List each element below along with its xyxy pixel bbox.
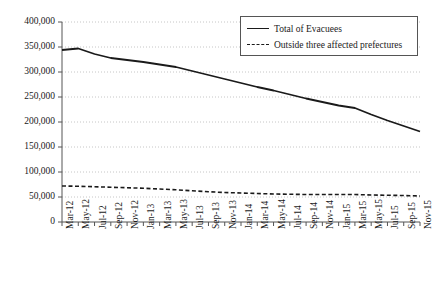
y-axis-ticks bbox=[58, 22, 62, 222]
x-axis-tick-label: Nov-15 bbox=[424, 200, 432, 229]
x-axis-tick-label: Jul-15 bbox=[391, 205, 401, 229]
y-axis-tick-label: 250,000 bbox=[24, 92, 55, 102]
x-axis-tick-label: Sep-12 bbox=[115, 202, 125, 229]
y-axis-tick-label: 200,000 bbox=[24, 117, 55, 127]
x-axis-tick-label: Jul-13 bbox=[196, 205, 206, 229]
legend: Total of Evacuees Outside three affected… bbox=[240, 16, 418, 56]
series-line-total-of-evacuees bbox=[62, 49, 420, 132]
x-axis-tick-label: Sep-15 bbox=[408, 202, 418, 229]
legend-label-outside: Outside three affected prefectures bbox=[274, 40, 402, 50]
legend-label-total: Total of Evacuees bbox=[274, 24, 342, 34]
x-axis-tick-label: Nov-14 bbox=[326, 200, 336, 229]
line-chart: 400,000350,000300,000250,000200,000150,0… bbox=[0, 0, 432, 284]
data-series-group bbox=[62, 49, 420, 197]
x-axis-tick-label: May-13 bbox=[180, 199, 190, 229]
x-axis-tick-label: May-12 bbox=[82, 199, 92, 229]
x-axis-tick-label: Mar-15 bbox=[359, 201, 369, 229]
legend-item-outside: Outside three affected prefectures bbox=[247, 37, 411, 53]
x-axis-tick-label: Jul-12 bbox=[99, 205, 109, 229]
x-axis-tick-label: May-15 bbox=[375, 199, 385, 229]
y-axis-tick-label: 400,000 bbox=[24, 17, 55, 27]
x-axis-tick-label: Jan-14 bbox=[245, 204, 255, 229]
x-axis-tick-label: Nov-13 bbox=[229, 200, 239, 229]
y-axis-tick-label: 300,000 bbox=[24, 67, 55, 77]
series-line-outside-three-affected-prefectures bbox=[62, 186, 420, 196]
x-axis-tick-label: Jan-15 bbox=[343, 204, 353, 229]
x-axis-tick-label: Jul-14 bbox=[294, 205, 304, 229]
x-axis-tick-label: Sep-14 bbox=[310, 202, 320, 229]
x-axis-tick-label: May-14 bbox=[278, 199, 288, 229]
x-axis-tick-label: Jan-13 bbox=[147, 204, 157, 229]
y-axis-tick-label: 50,000 bbox=[29, 192, 55, 202]
x-axis-tick-label: Mar-12 bbox=[66, 201, 76, 229]
y-axis-tick-label: 150,000 bbox=[24, 142, 55, 152]
x-axis-tick-label: Sep-13 bbox=[212, 202, 222, 229]
y-axis-tick-label: 100,000 bbox=[24, 167, 55, 177]
legend-swatch-solid-icon bbox=[247, 24, 269, 34]
y-axis-tick-label: 0 bbox=[50, 217, 55, 227]
x-axis-tick-label: Nov-12 bbox=[131, 200, 141, 229]
x-axis-tick-label: Mar-13 bbox=[164, 201, 174, 229]
x-axis-tick-label: Mar-14 bbox=[261, 201, 271, 229]
y-axis-tick-label: 350,000 bbox=[24, 42, 55, 52]
legend-item-total: Total of Evacuees bbox=[247, 21, 411, 37]
legend-swatch-dashed-icon bbox=[247, 40, 269, 50]
